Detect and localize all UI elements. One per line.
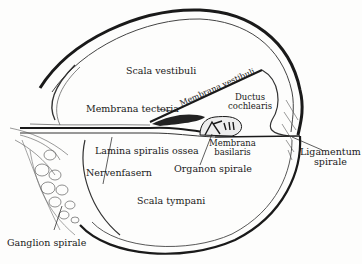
- ganglion-spirale-cells: [35, 150, 79, 223]
- label-ductus-cochlearis: Ductus cochlearis: [228, 93, 272, 111]
- label-organon-spirale: Organon spirale: [174, 164, 252, 174]
- label-membrana-basilaris: Membrana basilaris: [209, 139, 256, 157]
- lamina-spiralis-ossea: [20, 128, 210, 133]
- label-scala-vestibuli: Scala vestibuli: [126, 66, 196, 76]
- label-ganglion-spirale: Ganglion spirale: [7, 238, 86, 248]
- cochlea-illustration: [0, 0, 362, 264]
- label-membrana-tectoria: Membrana tectoria: [86, 104, 179, 114]
- label-ligamentum-spirale: Ligamentum spirale: [300, 147, 361, 167]
- label-lamina-spiralis-ossea: Lamina spiralis ossea: [95, 146, 199, 156]
- cochlea-cross-section-figure: Scala vestibuli Membrana vestibuli Ductu…: [0, 0, 362, 264]
- label-nervenfasern: Nervenfasern: [86, 168, 152, 178]
- label-scala-tympani: Scala tympani: [137, 196, 205, 206]
